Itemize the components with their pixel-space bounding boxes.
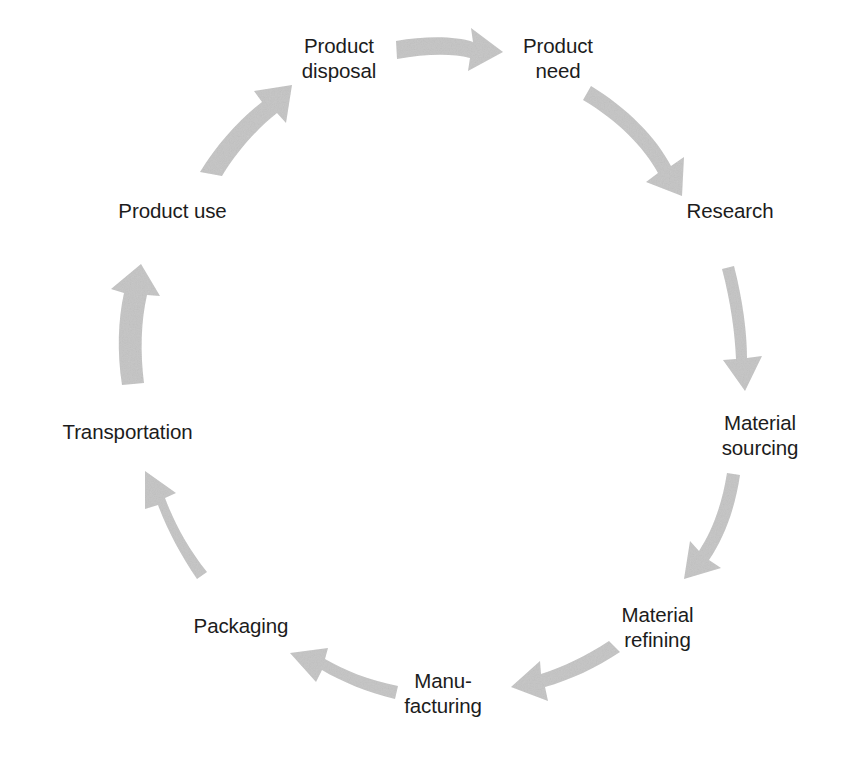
arrow-sourcing-to-refining (684, 473, 740, 579)
cycle-diagram: Product disposal Product need Research M… (0, 0, 847, 758)
node-material-sourcing: Material sourcing (680, 410, 840, 460)
node-packaging: Packaging (166, 613, 316, 638)
node-product-disposal: Product disposal (254, 33, 424, 83)
node-transportation: Transportation (40, 419, 215, 444)
node-product-use: Product use (90, 198, 255, 223)
arrow-packaging-to-transportation (145, 471, 207, 579)
arrow-transportation-to-use (111, 264, 160, 385)
arrow-research-to-sourcing (722, 266, 762, 391)
node-material-refining: Material refining (585, 602, 730, 652)
node-product-need: Product need (478, 33, 638, 83)
node-research: Research (660, 198, 800, 223)
arrow-need-to-research (583, 86, 684, 196)
node-manufacturing: Manu- facturing (378, 668, 508, 718)
arrow-use-to-disposal (200, 85, 292, 176)
